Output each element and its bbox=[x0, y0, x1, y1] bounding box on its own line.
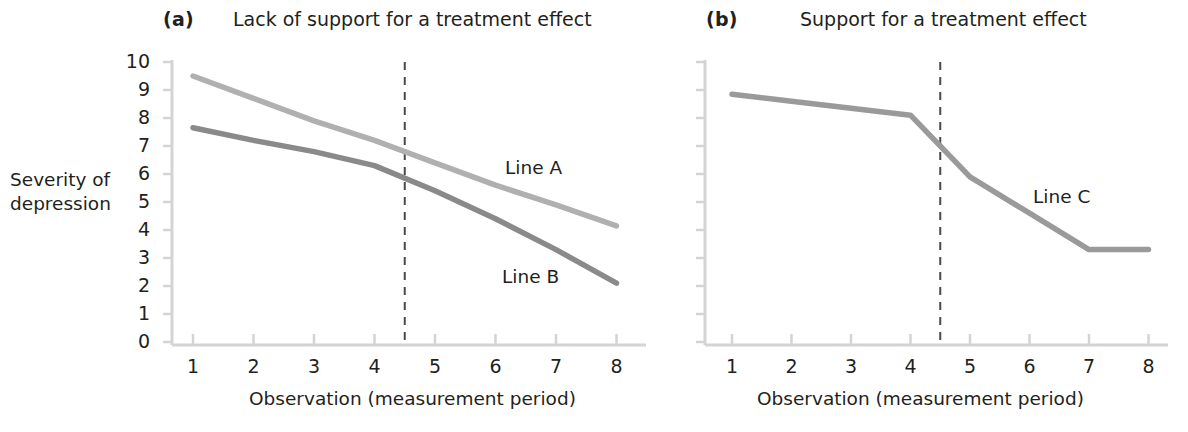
x-tick-label: 6 bbox=[481, 357, 511, 376]
panel-a-plot bbox=[0, 0, 690, 432]
x-tick-label: 2 bbox=[777, 357, 807, 376]
x-tick-label: 7 bbox=[1074, 357, 1104, 376]
x-tick-label: 4 bbox=[360, 357, 390, 376]
panel-b: (b) Support for a treatment effect 12345… bbox=[690, 0, 1188, 432]
x-tick-label: 1 bbox=[717, 357, 747, 376]
x-tick-label: 8 bbox=[602, 357, 632, 376]
y-tick-label: 4 bbox=[120, 220, 150, 239]
series-label-line-b: Line B bbox=[502, 266, 559, 287]
panel-b-plot bbox=[690, 0, 1188, 432]
y-tick-label: 5 bbox=[120, 192, 150, 211]
x-tick-label: 4 bbox=[896, 357, 926, 376]
panel-b-x-axis-title: Observation (measurement period) bbox=[757, 388, 1084, 409]
series-label-line-a: Line A bbox=[505, 157, 562, 178]
y-tick-label: 9 bbox=[120, 80, 150, 99]
x-tick-label: 3 bbox=[836, 357, 866, 376]
panel-a: (a) Lack of support for a treatment effe… bbox=[0, 0, 690, 432]
y-tick-label: 8 bbox=[120, 108, 150, 127]
y-tick-label: 2 bbox=[120, 276, 150, 295]
x-tick-label: 5 bbox=[420, 357, 450, 376]
y-tick-label: 7 bbox=[120, 136, 150, 155]
x-tick-label: 3 bbox=[299, 357, 329, 376]
y-tick-label: 1 bbox=[120, 304, 150, 323]
y-tick-label: 3 bbox=[120, 248, 150, 267]
x-tick-label: 6 bbox=[1015, 357, 1045, 376]
x-tick-label: 2 bbox=[239, 357, 269, 376]
series-label-line-c: Line C bbox=[1033, 186, 1090, 207]
y-tick-label: 6 bbox=[120, 164, 150, 183]
panel-a-x-axis-title: Observation (measurement period) bbox=[249, 388, 576, 409]
x-tick-label: 7 bbox=[541, 357, 571, 376]
y-tick-label: 10 bbox=[120, 52, 150, 71]
y-tick-label: 0 bbox=[120, 332, 150, 351]
figure-container: (a) Lack of support for a treatment effe… bbox=[0, 0, 1188, 432]
x-tick-label: 5 bbox=[955, 357, 985, 376]
x-tick-label: 1 bbox=[178, 357, 208, 376]
x-tick-label: 8 bbox=[1134, 357, 1164, 376]
